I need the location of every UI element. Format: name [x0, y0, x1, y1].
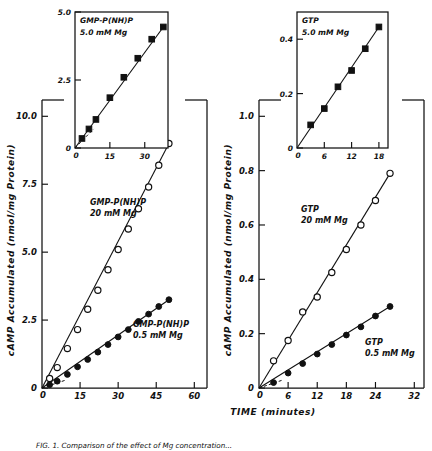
left-panel-ylabel: 2.5 — [22, 315, 37, 325]
left-inset-title-line2: 5.0 mM Mg — [80, 28, 128, 37]
left-panel-series-1-marker-filled-circle — [166, 297, 172, 303]
right-panel-xlabel: 32 — [408, 391, 420, 401]
left-panel-upper-label-line1: GMP-P(NH)P — [90, 198, 146, 207]
right-panel-xlabel: 6 — [285, 391, 291, 401]
left-panel-xlabel: 60 — [188, 391, 200, 401]
right-inset-xlabel: 18 — [374, 152, 384, 161]
left-panel-xlabel: 30 — [112, 391, 124, 401]
right-inset-origin-y: 0 — [288, 144, 293, 153]
right-panel-series-1-marker-filled-circle — [300, 361, 306, 367]
left-panel-ylabel: 10.0 — [16, 111, 37, 121]
right-inset-title-line1: GTP — [302, 16, 319, 25]
right-inset-series-0-marker-filled-square — [322, 106, 328, 112]
left-panel-series-1-marker-filled-circle — [54, 378, 60, 384]
left-panel-series-0-marker-open-circle — [115, 246, 121, 252]
left-panel-ylabel: 5.0 — [22, 247, 37, 257]
right-panel-series-1-marker-filled-circle — [387, 304, 393, 310]
right-panel-series-0-marker-open-circle — [372, 197, 378, 203]
figure-svg: 2.55.07.510.001530456000.20.40.60.81.006… — [0, 0, 432, 451]
right-panel-ylabel: 0.6 — [239, 220, 254, 230]
right-panel-ylabel: 0.4 — [239, 274, 254, 284]
right-panel-xlabel: 24 — [370, 391, 382, 401]
right-panel-series-0-marker-open-circle — [285, 337, 291, 343]
left-panel-series-1-marker-filled-circle — [75, 364, 81, 370]
left-y-axis-title: cAMP Accumulated (nmol/mg Protein) — [6, 144, 16, 356]
right-inset-xlabel: 12 — [346, 152, 356, 161]
left-panel-xlabel: 0 — [40, 390, 46, 400]
right-panel-series-0-marker-open-circle — [300, 309, 306, 315]
left-inset-series-0-marker-filled-square — [121, 74, 127, 80]
left-inset-origin-y: 0 — [66, 144, 71, 153]
right-panel-series-1-marker-filled-circle — [358, 324, 364, 330]
right-panel-series-0-marker-open-circle — [329, 269, 335, 275]
right-panel-series-0-marker-open-circle — [387, 170, 393, 176]
right-panel-series-0-marker-open-circle — [270, 358, 276, 364]
right-panel-lower-label-line1: GTP — [365, 338, 383, 347]
right-panel-series-0-marker-open-circle — [343, 246, 349, 252]
right-panel-series-1-marker-filled-circle — [271, 380, 277, 386]
left-panel-xlabel: 15 — [74, 391, 86, 401]
right-inset-ylabel: 0.4 — [280, 35, 293, 44]
right-inset-ylabel: 0.2 — [280, 90, 293, 99]
right-panel-series-1-marker-filled-circle — [285, 370, 291, 376]
left-panel-series-1-marker-filled-circle — [156, 304, 162, 310]
left-inset-series-0-marker-filled-square — [79, 136, 85, 142]
right-panel-upper-label-line1: GTP — [301, 205, 319, 214]
left-panel-series-0-marker-open-circle — [156, 162, 162, 168]
left-inset-series-0-marker-filled-square — [93, 117, 99, 123]
right-panel-xlabel: 0 — [257, 390, 263, 400]
left-inset-xlabel: 0 — [73, 151, 78, 160]
left-inset-xlabel: 15 — [105, 152, 115, 161]
left-panel-series-1-marker-filled-circle — [115, 334, 121, 340]
figure-container: 2.55.07.510.001530456000.20.40.60.81.006… — [0, 0, 432, 451]
left-inset-ylabel: 2.5 — [58, 76, 71, 85]
left-panel-series-0-line — [42, 143, 169, 388]
right-inset-xlabel: 0 — [295, 151, 300, 160]
left-panel-series-1-marker-filled-circle — [146, 311, 152, 317]
left-panel-series-1-marker-filled-circle — [64, 372, 70, 378]
left-panel-series-1-marker-filled-circle — [85, 357, 91, 363]
left-panel-lower-label-line1: GMP-P(NH)P — [133, 320, 189, 329]
right-inset-series-0-marker-filled-square — [362, 46, 368, 52]
left-panel-upper-label-line2: 20 mM Mg — [90, 209, 137, 218]
left-panel-lower-label-line2: 0.5 mM Mg — [133, 331, 183, 340]
left-panel-series-0-marker-open-circle — [146, 184, 152, 190]
right-inset-title-line2: 5.0 mM Mg — [302, 28, 350, 37]
left-panel-series-0-marker-open-circle — [64, 346, 70, 352]
right-y-axis-title: cAMP Accumulated (nmol/mg Protein) — [223, 144, 233, 356]
right-panel-series-1-marker-filled-circle — [329, 342, 335, 348]
left-inset-series-0-marker-filled-square — [149, 36, 155, 42]
right-panel-series-0-marker-open-circle — [314, 294, 320, 300]
right-panel-series-1-marker-filled-circle — [343, 332, 349, 338]
left-panel-series-1-marker-filled-circle — [105, 342, 111, 348]
left-panel-series-0-marker-open-circle — [95, 287, 101, 293]
x-axis-title: TIME (minutes) — [230, 407, 315, 417]
right-panel-ylabel: 1.0 — [239, 111, 254, 121]
left-panel-series-1-marker-filled-circle — [125, 327, 131, 333]
left-panel-ylabel: 7.5 — [22, 179, 37, 189]
right-inset-series-0-marker-filled-square — [335, 84, 341, 90]
right-inset-series-0-marker-filled-square — [376, 24, 382, 30]
right-panel-xlabel: 18 — [340, 391, 352, 401]
right-panel-series-1-line — [259, 306, 390, 388]
left-panel-series-0-marker-open-circle — [105, 267, 111, 273]
right-panel-series-1-marker-filled-circle — [314, 351, 320, 357]
right-panel-lower-label-line2: 0.5 mM Mg — [365, 349, 415, 358]
right-panel-xlabel: 12 — [311, 391, 323, 401]
left-inset-series-0-marker-filled-square — [86, 126, 92, 132]
figure-caption: FIG. 1. Comparison of the effect of Mg c… — [36, 441, 232, 450]
right-panel-upper-label-line2: 20 mM Mg — [301, 216, 348, 225]
left-inset-ylabel: 5.0 — [58, 8, 71, 17]
left-panel-series-0-marker-open-circle — [85, 306, 91, 312]
left-panel-series-0-marker-open-circle — [74, 326, 80, 332]
left-inset-series-0-marker-filled-square — [161, 24, 167, 30]
right-panel-ylabel: 0.8 — [239, 166, 254, 176]
left-inset-series-0-marker-filled-square — [135, 55, 141, 61]
left-panel-series-1-marker-filled-circle — [95, 349, 101, 355]
left-panel-series-0-marker-open-circle — [54, 365, 60, 371]
right-inset-series-0-marker-filled-square — [349, 68, 355, 74]
left-panel-series-1-marker-filled-circle — [47, 382, 53, 388]
right-panel-series-1-marker-filled-circle — [373, 313, 379, 319]
left-panel-xlabel: 45 — [149, 391, 162, 401]
left-inset-title-line1: GMP-P(NH)P — [80, 16, 134, 25]
